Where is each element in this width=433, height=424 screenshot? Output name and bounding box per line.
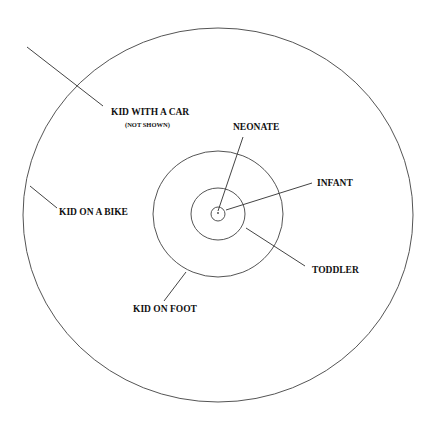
leader-kid-on-foot <box>164 272 186 301</box>
label-kid-with-car: KID WITH A CAR <box>111 107 189 117</box>
leader-neonate <box>218 137 243 211</box>
leader-toddler <box>246 228 305 266</box>
ring-toddler <box>191 188 245 240</box>
leader-kid-with-car <box>27 47 103 106</box>
label-kid-on-bike: KID ON A BIKE <box>59 207 128 217</box>
leader-kid-on-bike <box>30 186 57 208</box>
label-kid-with-car-note: (NOT SHOWN) <box>125 121 170 129</box>
ring-kid-on-foot <box>153 151 283 277</box>
label-infant: INFANT <box>317 178 353 188</box>
leader-infant <box>226 183 312 210</box>
label-kid-on-foot: KID ON FOOT <box>133 304 198 314</box>
center-dot <box>217 212 219 214</box>
label-neonate: NEONATE <box>233 122 279 132</box>
label-toddler: TODDLER <box>312 265 359 275</box>
ring-neonate <box>211 207 225 221</box>
concentric-range-diagram: KID WITH A CAR (NOT SHOWN) KID ON A BIKE… <box>0 0 433 424</box>
